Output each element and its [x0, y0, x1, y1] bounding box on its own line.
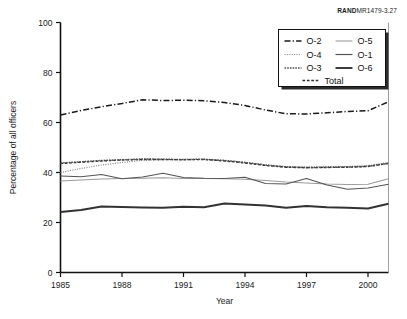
legend-label-o-4[interactable]: O-4 — [307, 50, 322, 60]
legend-label-o-2[interactable]: O-2 — [307, 36, 322, 46]
y-axis-tick-label: 20 — [43, 218, 53, 228]
legend-label-o-3[interactable]: O-3 — [307, 63, 322, 73]
y-axis-tick-label: 80 — [43, 68, 53, 78]
series-line-o-1 — [61, 173, 389, 189]
series-line-o-2 — [61, 100, 389, 115]
x-axis-tick-label: 1997 — [297, 280, 316, 290]
legend-box: O-2O-5O-4O-1O-3O-6Total — [279, 30, 389, 90]
x-axis-tick-label: 1994 — [236, 280, 255, 290]
series-line-o-6 — [61, 204, 389, 213]
x-axis-title: Year — [216, 296, 233, 306]
y-axis-tick-label: 60 — [43, 118, 53, 128]
x-axis-tick-label: 2000 — [359, 280, 378, 290]
chart-figure: RANDMR1479-3.27 020406080100198519881991… — [0, 0, 407, 319]
legend-label-o-1[interactable]: O-1 — [358, 50, 373, 60]
x-axis-tick-label: 1985 — [51, 280, 70, 290]
series-line-o-3 — [61, 159, 389, 168]
y-axis-tick-label: 0 — [48, 268, 53, 278]
x-axis-tick-label: 1991 — [174, 280, 193, 290]
y-axis-tick-label: 100 — [38, 18, 52, 28]
x-axis-tick-label: 1988 — [113, 280, 132, 290]
y-axis-title: Percentage of all officers — [8, 101, 18, 194]
series-group — [61, 100, 389, 212]
legend-label-total[interactable]: Total — [325, 76, 344, 86]
line-chart-plot: 020406080100198519881991199419972000Year… — [0, 0, 407, 319]
legend-label-o-6[interactable]: O-6 — [358, 63, 373, 73]
y-axis-tick-label: 40 — [43, 168, 53, 178]
legend-label-o-5[interactable]: O-5 — [358, 36, 373, 46]
